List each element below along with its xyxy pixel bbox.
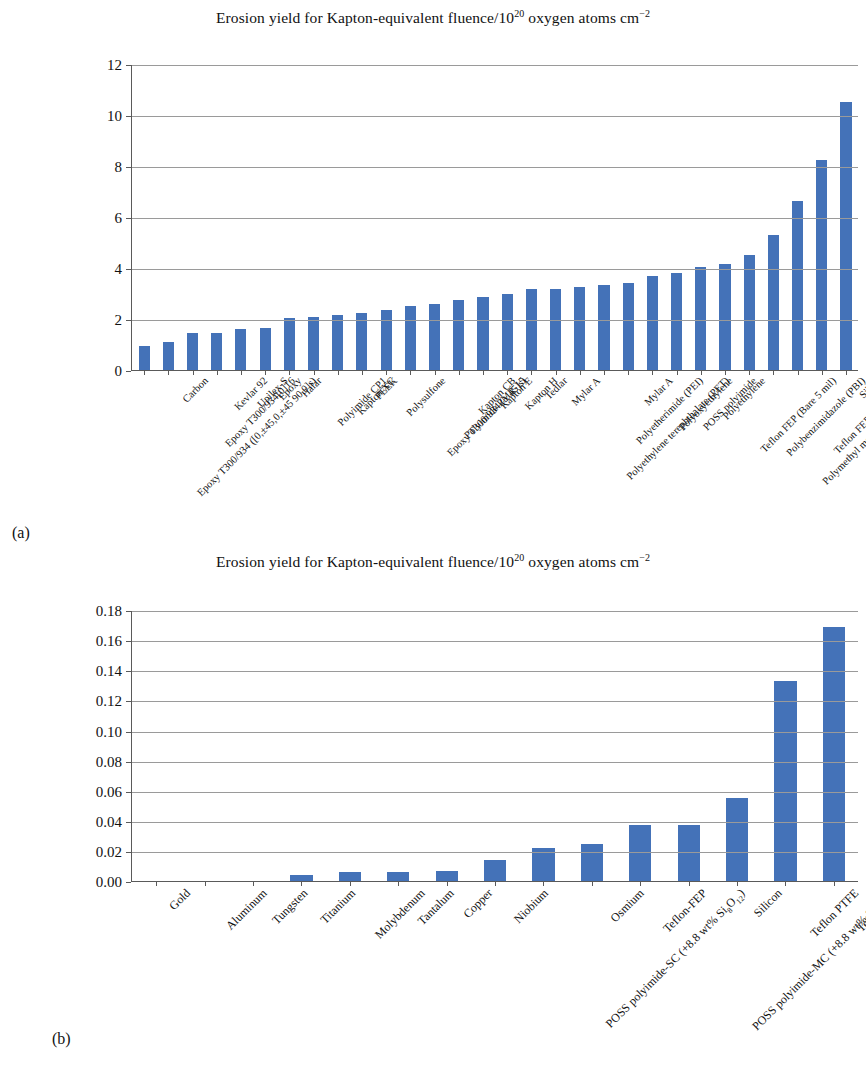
gridline <box>132 671 858 672</box>
gridline <box>132 732 858 733</box>
bar <box>671 273 682 370</box>
y-tick-mark <box>126 320 131 321</box>
bar <box>477 297 488 370</box>
x-tick-mark <box>604 370 605 375</box>
x-tick-mark <box>507 370 508 375</box>
x-tick-mark <box>410 370 411 375</box>
bar <box>695 267 706 370</box>
y-tick-mark <box>126 792 131 793</box>
bar <box>211 333 222 370</box>
chart-b-title-main: Erosion yield for Kapton-equivalent flue… <box>216 553 514 570</box>
bar-slot <box>132 611 180 881</box>
gridline <box>132 852 858 853</box>
chart-b-title-tail-exponent: −2 <box>639 552 650 563</box>
bar <box>387 872 409 881</box>
bar <box>792 201 803 371</box>
x-tick-label: Osmium <box>608 886 648 926</box>
bar <box>163 342 174 370</box>
bar <box>744 255 755 370</box>
x-tick-mark <box>483 370 484 375</box>
bar <box>726 798 748 881</box>
x-tick-mark <box>193 370 194 375</box>
chart-b-title-exponent: 20 <box>514 552 524 563</box>
y-tick-label: 0.14 <box>96 663 122 680</box>
chart-a-title-exponent: 20 <box>514 8 524 19</box>
x-tick-label: Polysulfone <box>404 375 447 418</box>
bar-slot <box>761 611 809 881</box>
bar-slot <box>519 611 567 881</box>
x-tick-mark <box>265 370 266 375</box>
y-tick-mark <box>126 218 131 219</box>
chart-a-title: Erosion yield for Kapton-equivalent flue… <box>0 8 866 27</box>
x-tick-mark <box>217 370 218 375</box>
x-tick-mark <box>543 881 544 886</box>
bar <box>356 313 367 370</box>
y-tick-mark <box>126 269 131 270</box>
x-tick-label: Mylar A <box>569 375 602 408</box>
x-tick-mark <box>773 370 774 375</box>
y-tick-mark <box>126 732 131 733</box>
y-tick-mark <box>126 167 131 168</box>
bar <box>678 825 700 881</box>
x-tick-mark <box>144 370 145 375</box>
x-tick-label: Titanium <box>317 886 358 927</box>
x-tick-mark <box>314 370 315 375</box>
bar <box>526 289 537 371</box>
gridline <box>132 65 858 66</box>
x-tick-mark <box>398 881 399 886</box>
bar-series-b <box>132 611 858 881</box>
x-tick-mark <box>701 370 702 375</box>
y-tick-mark <box>126 882 131 883</box>
bar <box>581 844 603 882</box>
x-tick-label: Niobium <box>511 886 552 927</box>
bar-slot <box>810 611 858 881</box>
bar-slot <box>471 611 519 881</box>
x-tick-mark <box>386 370 387 375</box>
y-tick-label: 0.06 <box>96 783 122 800</box>
y-tick-label: 0.16 <box>96 633 122 650</box>
x-tick-mark <box>205 881 206 886</box>
x-tick-label: Halar <box>299 375 323 399</box>
y-tick-label: 12 <box>107 57 122 74</box>
chart-b-title-tail: oxygen atoms cm <box>524 553 639 570</box>
bar <box>436 871 458 882</box>
x-tick-mark <box>592 881 593 886</box>
y-tick-mark <box>126 701 131 702</box>
x-tick-mark <box>785 881 786 886</box>
x-tick-mark <box>652 370 653 375</box>
gridline <box>132 611 858 612</box>
bar <box>405 306 416 370</box>
x-tick-mark <box>846 370 847 375</box>
x-tick-mark <box>495 881 496 886</box>
x-tick-mark <box>168 370 169 375</box>
gridline <box>132 762 858 763</box>
bar <box>823 627 845 881</box>
x-tick-mark <box>338 370 339 375</box>
bar-slot <box>568 611 616 881</box>
chart-panel-a: Erosion yield for Kapton-equivalent flue… <box>0 8 866 537</box>
bar-slot <box>422 611 470 881</box>
panel-a-label: (a) <box>12 524 30 542</box>
chart-b-title: Erosion yield for Kapton-equivalent flue… <box>0 552 866 571</box>
gridline <box>132 822 858 823</box>
bar-slot <box>374 611 422 881</box>
bar <box>260 328 271 370</box>
bar <box>284 318 295 370</box>
x-tick-mark <box>822 370 823 375</box>
x-tick-mark <box>556 370 557 375</box>
bar <box>816 160 827 370</box>
chart-a-title-tail-exponent: −2 <box>639 8 650 19</box>
y-tick-label: 0.08 <box>96 753 122 770</box>
plot-area-b <box>131 611 858 882</box>
y-tick-label: 0.02 <box>96 844 122 861</box>
x-tick-mark <box>677 370 678 375</box>
gridline <box>132 320 858 321</box>
bar <box>484 860 506 881</box>
y-tick-label: 2 <box>115 312 123 329</box>
x-tick-mark <box>156 881 157 886</box>
x-tick-mark <box>241 370 242 375</box>
bar <box>550 289 561 371</box>
x-tick-mark <box>640 881 641 886</box>
x-tick-mark <box>834 881 835 886</box>
bar <box>453 300 464 370</box>
